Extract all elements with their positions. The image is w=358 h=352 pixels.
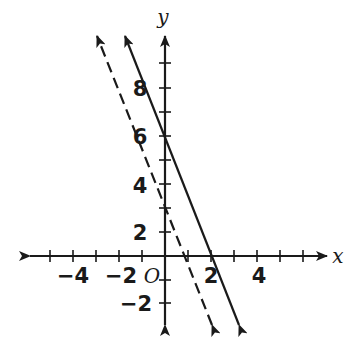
x-axis-label: x [332,244,343,268]
x-tick-label-pos4: 4 [252,264,267,288]
y-tick-label-pos2: 2 [133,221,148,245]
y-tick-label-pos8: 8 [133,77,148,101]
x-tick-label-neg4: −4 [57,264,89,288]
y-tick-label-pos4: 4 [133,174,148,198]
coordinate-plane: −4 −2 2 4 8 6 4 2 −2 O x y [0,0,358,352]
y-axis-label: y [156,5,169,29]
y-tick-label-pos6: 6 [133,125,148,149]
x-tick-label-neg2: −2 [105,264,137,288]
origin-label: O [144,264,160,288]
y-tick-label-neg2: −2 [120,292,152,316]
x-tick-label-pos2: 2 [204,264,219,288]
